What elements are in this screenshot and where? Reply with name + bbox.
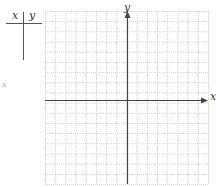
x-axis-label: x bbox=[210, 90, 216, 103]
coordinate-grid bbox=[0, 0, 216, 187]
y-axis-label: y bbox=[124, 1, 130, 14]
